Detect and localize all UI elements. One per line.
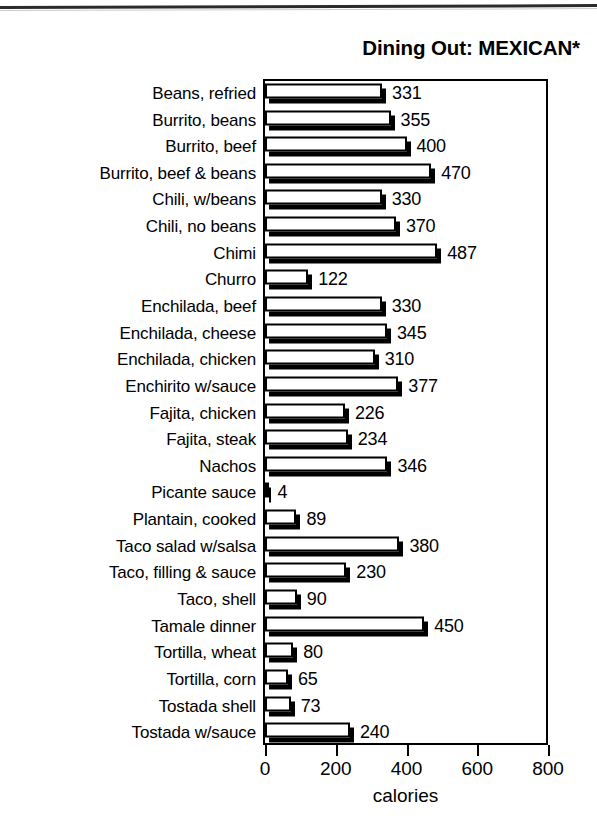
bar-body [265, 83, 382, 98]
bar-category-label: Tortilla, corn [166, 669, 256, 688]
bar-category-label: Chili, w/beans [152, 190, 256, 209]
bar [265, 350, 379, 369]
x-axis-tick-label: 800 [532, 758, 564, 779]
bar [265, 83, 386, 102]
bar-category-label: Burrito, beans [152, 110, 256, 129]
bar-value-label: 330 [392, 296, 421, 316]
table-row: Tamale dinner450 [0, 612, 597, 640]
bar-body [265, 190, 382, 205]
table-row: Taco salad w/salsa380 [0, 532, 597, 560]
table-row: Enchirito w/sauce377 [0, 372, 597, 400]
bar-value-label: 240 [360, 722, 389, 742]
bar-body [265, 296, 382, 311]
bar-value-label: 230 [356, 562, 385, 582]
bar-value-label: 90 [307, 589, 327, 609]
bar [265, 483, 271, 502]
bar-value-label: 4 [277, 482, 287, 502]
bar-value-label: 89 [306, 509, 326, 529]
bar-category-label: Tostada shell [159, 696, 256, 715]
bar-category-label: Enchilada, cheese [120, 323, 256, 342]
bar-value-label: 377 [408, 376, 437, 396]
x-axis-tick-label: 400 [391, 758, 423, 779]
bar-body [265, 137, 407, 152]
table-row: Taco, filling & sauce230 [0, 559, 597, 587]
bar [265, 643, 297, 662]
bar-value-label: 226 [355, 403, 384, 423]
table-row: Tortilla, wheat80 [0, 638, 597, 666]
table-row: Chili, w/beans330 [0, 186, 597, 214]
bar-category-label: Burrito, beef & beans [99, 163, 256, 182]
bar-body [265, 323, 387, 338]
bar-category-label: Enchirito w/sauce [125, 376, 256, 395]
bar-category-label: Picante sauce [151, 483, 256, 502]
x-axis-tick [548, 745, 550, 756]
bar-category-label: Tortilla, wheat [154, 643, 256, 662]
bar [265, 243, 441, 262]
bar-category-label: Nachos [199, 456, 256, 475]
bar-category-label: Enchilada, beef [141, 296, 256, 315]
bar-body [265, 590, 297, 605]
bar-value-label: 330 [392, 189, 421, 209]
bar-value-label: 370 [406, 216, 435, 236]
bar-category-label: Taco, shell [177, 590, 256, 609]
x-axis-tick-label: 600 [461, 758, 493, 779]
table-row: Enchilada, chicken310 [0, 345, 597, 373]
bar-value-label: 355 [401, 110, 430, 130]
bar-body [265, 243, 437, 258]
bar [265, 430, 352, 449]
bar-category-label: Taco, filling & sauce [109, 563, 256, 582]
bar-value-label: 380 [409, 536, 438, 556]
bar-value-label: 400 [417, 136, 446, 156]
bar [265, 403, 349, 422]
bar-category-label: Burrito, beef [165, 137, 256, 156]
table-row: Burrito, beans355 [0, 106, 597, 134]
bar [265, 696, 295, 715]
bar-body [265, 510, 296, 525]
x-axis-tick [265, 745, 267, 756]
table-row: Plantain, cooked89 [0, 505, 597, 533]
bar [265, 616, 428, 635]
bar-body [265, 350, 375, 365]
bar-body [265, 456, 387, 471]
bar [265, 536, 403, 555]
bar-body [265, 723, 350, 738]
x-axis-tick-label: 0 [260, 758, 271, 779]
table-row: Tostada shell73 [0, 692, 597, 720]
bar-body [265, 217, 396, 232]
bar [265, 323, 391, 342]
bar-value-label: 450 [434, 616, 463, 636]
x-axis-tick [407, 745, 409, 756]
bar-category-label: Churro [205, 270, 256, 289]
bar-body [265, 430, 348, 445]
bar [265, 110, 395, 129]
bar-body [265, 616, 424, 631]
chart-title: Dining Out: MEXICAN* [0, 36, 580, 60]
bar [265, 270, 312, 289]
bar [265, 137, 411, 156]
table-row: Tortilla, corn65 [0, 665, 597, 693]
bar-body [265, 696, 291, 711]
table-row: Chimi487 [0, 239, 597, 267]
bar-body [265, 110, 391, 125]
table-row: Churro122 [0, 265, 597, 293]
table-row: Nachos346 [0, 452, 597, 480]
bar-body [265, 163, 431, 178]
bar [265, 190, 386, 209]
x-axis-tick [477, 745, 479, 756]
bar [265, 723, 354, 742]
bar-value-label: 310 [385, 349, 414, 369]
bar-body [265, 536, 399, 551]
table-row: Enchilada, beef330 [0, 292, 597, 320]
scan-artifact-line [0, 4, 597, 9]
bar-value-label: 470 [441, 163, 470, 183]
bar-body [265, 270, 308, 285]
bar-value-label: 122 [318, 269, 347, 289]
bar-body [265, 403, 345, 418]
bar-category-label: Chimi [213, 243, 256, 262]
bar-category-label: Beans, refried [152, 83, 256, 102]
bar-value-label: 80 [303, 642, 323, 662]
table-row: Enchilada, cheese345 [0, 319, 597, 347]
table-row: Fajita, chicken226 [0, 399, 597, 427]
bar-value-label: 234 [358, 429, 387, 449]
bar-value-label: 65 [298, 669, 318, 689]
